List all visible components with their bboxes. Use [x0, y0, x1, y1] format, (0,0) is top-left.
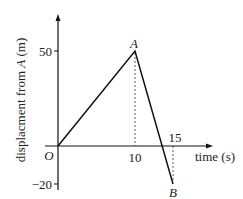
xtick-15-label: 15 — [169, 130, 182, 145]
y-axis-title-pre: displacment from — [13, 68, 28, 163]
xtick-10-label: 10 — [129, 150, 142, 165]
x-axis-arrow-icon — [206, 144, 213, 149]
point-a-label: A — [129, 36, 138, 51]
y-axis-title-a: A — [13, 60, 28, 69]
ytick-50-label: 50 — [39, 44, 52, 59]
x-axis-title: time (s) — [195, 149, 235, 164]
y-axis-arrow-icon — [56, 14, 61, 21]
displacement-time-chart: 50 −20 10 15 O A B time (s) displacment … — [0, 0, 243, 199]
displacement-line — [58, 51, 173, 184]
y-axis-title: displacment from A (m) — [13, 38, 28, 163]
ytick-neg20-label: −20 — [32, 177, 52, 192]
origin-label: O — [44, 148, 54, 163]
point-b-label: B — [169, 185, 177, 199]
y-axis-title-post: (m) — [13, 38, 28, 60]
